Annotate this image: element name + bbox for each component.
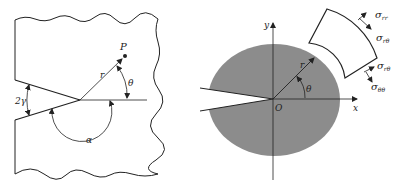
sigma-rr-label: σrr bbox=[375, 9, 389, 21]
theta-label: θ bbox=[306, 84, 312, 94]
sigma-rtheta-label-2: σrθ bbox=[377, 60, 391, 72]
body-outline bbox=[15, 13, 165, 180]
diagram-canvas: P r θ 2γ α y x O r θ σr bbox=[0, 0, 400, 186]
x-axis-label: x bbox=[353, 103, 358, 113]
sigma-rtheta-arrow-2 bbox=[364, 67, 374, 72]
alpha-label: α bbox=[86, 135, 92, 145]
alpha-arc bbox=[52, 101, 112, 141]
sigma-rtheta-arrow-1 bbox=[359, 18, 371, 29]
y-axis-label: y bbox=[263, 20, 270, 30]
point-p-dot bbox=[123, 54, 127, 58]
theta-arc bbox=[117, 66, 127, 98]
point-p-label: P bbox=[119, 41, 127, 52]
sigma-thetatheta-label: σθθ bbox=[371, 81, 385, 93]
notch-angle-arc bbox=[27, 85, 29, 115]
sigma-rtheta-label-1: σrθ bbox=[376, 32, 390, 44]
crack-tip-panel: y x O r θ σrr σrθ σrθ σθθ bbox=[200, 9, 391, 180]
radius-label: r bbox=[100, 70, 105, 80]
theta-label: θ bbox=[128, 78, 134, 88]
sigma-rr-arrow bbox=[358, 13, 366, 20]
origin-label: O bbox=[275, 103, 283, 113]
notch-angle-label: 2γ bbox=[14, 96, 27, 106]
notched-body-panel: P r θ 2γ α bbox=[14, 13, 165, 180]
radius-label: r bbox=[300, 60, 305, 70]
